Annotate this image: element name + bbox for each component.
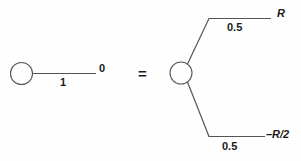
- equivalence-symbol: =: [138, 66, 147, 81]
- lower-branch-payoff-label: –R/2: [266, 129, 289, 140]
- upper-branch-payoff-label: R: [277, 8, 285, 19]
- upper-branch-probability-label: 0.5: [227, 22, 242, 33]
- decision-tree-figure: 1 0 = 0.5 R 0.5 –R/2: [0, 0, 301, 161]
- left-branch-probability-label: 1: [60, 77, 66, 88]
- lower-branch-probability-label: 0.5: [222, 141, 237, 152]
- left-branch-payoff-label: 0: [99, 63, 105, 74]
- right-chance-node-circle: [170, 62, 192, 84]
- lower-branch-diagonal: [188, 82, 210, 137]
- left-chance-node-circle: [11, 63, 33, 85]
- upper-branch-diagonal: [188, 19, 210, 65]
- tree-lines-canvas: [0, 0, 301, 161]
